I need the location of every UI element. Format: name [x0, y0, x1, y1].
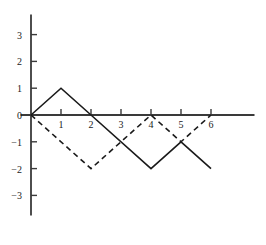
- y-tick-label-1: 1: [17, 83, 22, 94]
- y-tick-label-0: 0: [17, 110, 22, 121]
- chart-figure: 1234563210−1−2−3: [0, 0, 266, 245]
- y-tick-label-−3: −3: [11, 190, 22, 201]
- y-tick-label-3: 3: [17, 30, 22, 41]
- line-chart-plot: 1234563210−1−2−3: [0, 0, 266, 245]
- x-tick-label-5: 5: [179, 119, 184, 130]
- y-tick-label-−2: −2: [11, 164, 22, 175]
- x-tick-label-6: 6: [209, 119, 214, 130]
- x-tick-label-4: 4: [149, 119, 154, 130]
- y-tick-label-2: 2: [17, 56, 22, 67]
- x-tick-label-3: 3: [119, 119, 124, 130]
- x-tick-label-1: 1: [59, 119, 64, 130]
- x-tick-label-2: 2: [89, 119, 94, 130]
- y-tick-label-−1: −1: [11, 137, 22, 148]
